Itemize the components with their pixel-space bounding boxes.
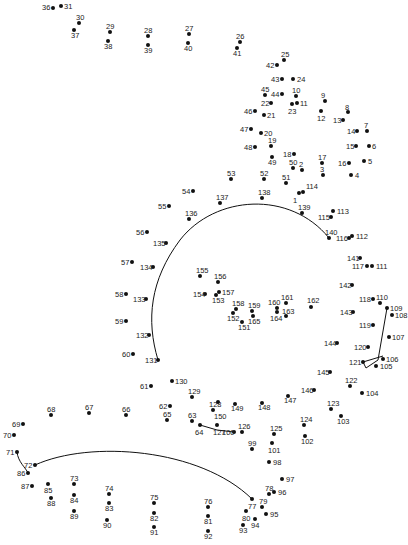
dot-14[interactable] xyxy=(355,129,359,133)
dot-162[interactable] xyxy=(309,305,313,309)
dot-5[interactable] xyxy=(362,159,366,163)
dot-label: 163 xyxy=(282,308,295,316)
dot-label: 134 xyxy=(140,264,153,272)
dot-86[interactable] xyxy=(26,471,30,475)
dot-11[interactable] xyxy=(295,101,299,105)
dot-59[interactable] xyxy=(124,319,128,323)
dot-label: 139 xyxy=(298,204,311,212)
dot-121[interactable] xyxy=(361,360,365,364)
dot-13[interactable] xyxy=(341,118,345,122)
dot-104[interactable] xyxy=(360,391,364,395)
dot-label: 61 xyxy=(140,383,148,391)
dot-label: 123 xyxy=(327,400,340,408)
dot-106[interactable] xyxy=(381,357,385,361)
dot-60[interactable] xyxy=(131,352,135,356)
dot-47[interactable] xyxy=(249,127,253,131)
dot-62[interactable] xyxy=(168,404,172,408)
dot-15[interactable] xyxy=(354,144,358,148)
dot-72[interactable] xyxy=(33,463,37,467)
dot-label: 86 xyxy=(17,470,25,478)
dot-120[interactable] xyxy=(366,345,370,349)
dot-95[interactable] xyxy=(264,512,268,516)
dot-23[interactable] xyxy=(290,102,294,106)
dot-21[interactable] xyxy=(262,113,266,117)
dot-label: 22 xyxy=(261,100,269,108)
dot-22[interactable] xyxy=(269,101,273,105)
dot-113[interactable] xyxy=(331,209,335,213)
dot-70[interactable] xyxy=(12,433,16,437)
dot-label: 58 xyxy=(115,291,123,299)
dot-4[interactable] xyxy=(349,173,353,177)
dot-label: 31 xyxy=(64,3,72,11)
dot-label: 36 xyxy=(42,4,50,12)
dot-80[interactable] xyxy=(244,509,248,513)
dot-16[interactable] xyxy=(347,161,351,165)
dot-101[interactable] xyxy=(270,441,274,445)
dot-label: 81 xyxy=(204,518,212,526)
dot-label: 66 xyxy=(122,406,130,414)
dot-label: 70 xyxy=(3,432,11,440)
dot-61[interactable] xyxy=(149,384,153,388)
dot-107[interactable] xyxy=(387,335,391,339)
dot-56[interactable] xyxy=(145,230,149,234)
dot-43[interactable] xyxy=(280,77,284,81)
dot-118[interactable] xyxy=(371,297,375,301)
dot-24[interactable] xyxy=(291,77,295,81)
dot-label: 99 xyxy=(248,440,256,448)
dot-108[interactable] xyxy=(390,313,394,317)
dot-label: 164 xyxy=(270,315,283,323)
dot-label: 94 xyxy=(251,522,259,530)
dot-label: 75 xyxy=(150,494,158,502)
dot-label: 5 xyxy=(368,158,372,166)
dot-18[interactable] xyxy=(292,152,296,156)
dot-117[interactable] xyxy=(365,264,369,268)
dot-label: 144 xyxy=(324,340,337,348)
dot-55[interactable] xyxy=(167,204,171,208)
dot-label: 24 xyxy=(297,76,305,84)
dot-label: 77 xyxy=(248,503,256,511)
dot-96[interactable] xyxy=(272,490,276,494)
dot-69[interactable] xyxy=(21,422,25,426)
dot-6[interactable] xyxy=(367,144,371,148)
dot-119[interactable] xyxy=(371,323,375,327)
dot-label: 73 xyxy=(70,475,78,483)
dot-87[interactable] xyxy=(30,484,34,488)
dot-label: 53 xyxy=(227,170,235,178)
dot-label: 104 xyxy=(366,390,379,398)
dot-57[interactable] xyxy=(130,260,134,264)
dot-58[interactable] xyxy=(124,292,128,296)
dot-109[interactable] xyxy=(385,306,389,310)
dot-46[interactable] xyxy=(253,109,257,113)
dot-77[interactable] xyxy=(250,497,254,501)
dot-label: 69 xyxy=(12,421,20,429)
dot-label: 90 xyxy=(103,522,111,530)
dot-105[interactable] xyxy=(374,364,378,368)
dot-label: 122 xyxy=(345,377,358,385)
dot-150[interactable] xyxy=(216,400,220,404)
dot-31[interactable] xyxy=(59,4,63,8)
dot-98[interactable] xyxy=(267,460,271,464)
dot-44[interactable] xyxy=(280,92,284,96)
dot-97[interactable] xyxy=(280,477,284,481)
dot-label: 89 xyxy=(70,513,78,521)
dot-label: 42 xyxy=(266,62,274,70)
dot-111[interactable] xyxy=(370,264,374,268)
dot-36[interactable] xyxy=(51,6,55,10)
dot-42[interactable] xyxy=(275,63,279,67)
dot-127[interactable] xyxy=(215,423,219,427)
dot-114[interactable] xyxy=(301,190,305,194)
dot-130[interactable] xyxy=(170,379,174,383)
dot-label: 140 xyxy=(325,229,338,237)
dot-71[interactable] xyxy=(15,450,19,454)
dot-20[interactable] xyxy=(259,131,263,135)
dot-54[interactable] xyxy=(191,189,195,193)
dot-label: 27 xyxy=(185,25,193,33)
dot-48[interactable] xyxy=(253,145,257,149)
dot-12[interactable] xyxy=(319,109,323,113)
dot-157[interactable] xyxy=(217,290,221,294)
dot-label: 15 xyxy=(346,143,354,151)
dot-label: 12 xyxy=(317,115,325,123)
dot-label: 106 xyxy=(386,356,399,364)
dot-64[interactable] xyxy=(198,423,202,427)
dot-label: 8 xyxy=(345,104,349,112)
